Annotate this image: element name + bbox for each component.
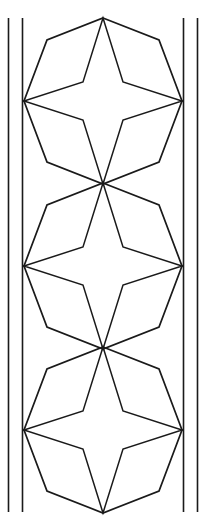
ornament-drawing-canvas [0,0,206,525]
ornamental-border-figure [0,0,206,525]
